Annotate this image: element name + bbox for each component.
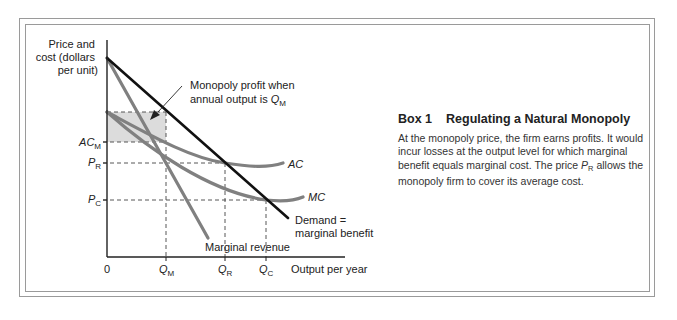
y-tick-pc: PC	[88, 193, 101, 208]
origin-label: 0	[104, 263, 110, 275]
demand-label: Demand = marginal benefit	[295, 214, 373, 239]
y-tick-pr: PR	[88, 156, 101, 171]
y-axis-title: Price and cost (dollars per unit)	[36, 38, 98, 76]
profit-annotation: Monopoly profit when annual output is QM	[190, 79, 298, 108]
ac-label: AC	[287, 158, 303, 170]
box-number: Box 1	[398, 112, 432, 126]
box-1-panel: Box 1Regulating a Natural Monopoly At th…	[398, 112, 653, 189]
marginal-revenue-label: Marginal revenue	[205, 241, 290, 253]
box-heading: Regulating a Natural Monopoly	[446, 112, 630, 126]
box-body: At the monopoly price, the firm earns pr…	[398, 132, 653, 189]
x-tick-qm: QM	[159, 263, 175, 278]
box-title: Box 1Regulating a Natural Monopoly	[398, 112, 653, 126]
x-tick-qr: QR	[218, 263, 233, 278]
x-tick-qc: QC	[259, 263, 274, 278]
mc-label: MC	[308, 191, 325, 203]
y-tick-acm: ACM	[78, 136, 101, 151]
x-axis-title: Output per year	[291, 263, 368, 275]
